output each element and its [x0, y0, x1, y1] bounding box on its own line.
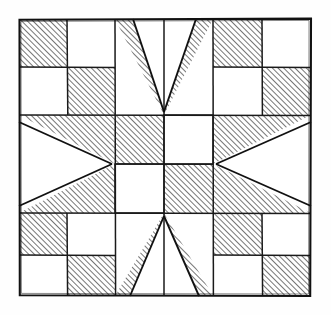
plain-patch [115, 164, 164, 213]
plain-patch [213, 255, 262, 296]
plain-patch [67, 213, 115, 255]
grid-line [115, 19, 116, 296]
hatched-patch [262, 67, 311, 115]
hatched-patch [19, 213, 67, 255]
plain-patch [19, 67, 67, 115]
grid-line [19, 67, 115, 68]
plain-patch [19, 255, 67, 296]
hatched-patch [262, 255, 311, 296]
plain-patch [262, 19, 311, 67]
plain-patch [213, 67, 262, 115]
hatched-patch [164, 164, 213, 213]
hatched-patch [67, 255, 115, 296]
hatched-patch [19, 19, 67, 67]
hatched-patch [213, 213, 262, 255]
hatched-patch [67, 67, 115, 115]
hatched-patch [213, 19, 262, 67]
grid-line [19, 213, 311, 214]
plain-patch [67, 19, 115, 67]
plain-patch [164, 115, 213, 164]
plain-patch [262, 213, 311, 255]
hatched-patch [115, 115, 164, 164]
quilt-block-drawing [0, 0, 331, 315]
quilt-block-figure: Quilt Block Pattern Hand-drawn quilt blo… [0, 0, 331, 315]
